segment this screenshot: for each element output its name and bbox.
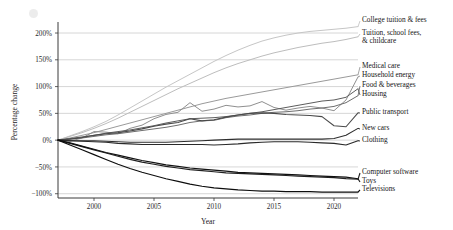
series-label: Housing [362,90,387,98]
x-tick-label: 2020 [327,203,342,211]
chart-figure: −100%−50%0%50%100%150%200% 2000200520102… [0,0,453,230]
series-label: Tuition, school fees,& childcare [362,29,421,46]
series-line [58,140,358,192]
series-label-line: College tuition & fees [362,16,427,24]
series-lines [58,27,358,193]
series-line [58,27,358,141]
series-label-line: Clothing [362,136,388,144]
series-leader-line [358,21,360,27]
series-label: Household energy [362,71,415,79]
series-label-line: Household energy [362,71,415,79]
y-tick-label: 50% [39,110,52,118]
y-tick-label: 100% [35,83,52,91]
series-label: Public transport [362,108,408,116]
series-line [58,75,358,140]
y-axis-ticks: −100%−50%0%50%100%150%200% [31,30,58,199]
y-tick-label: −50% [35,164,52,172]
series-line [58,113,358,140]
series-label-line: Televisions [362,185,395,193]
series-label: Clothing [362,136,388,144]
x-axis-title: Year [201,217,215,226]
series-label-line: Public transport [362,108,408,116]
y-tick-label: −100% [31,190,52,198]
series-leader-line [358,190,360,192]
x-tick-label: 2015 [267,203,282,211]
series-leader-line [358,173,360,179]
series-label-line: & childcare [362,37,421,45]
y-tick-label: 200% [35,30,52,38]
series-line [58,140,358,179]
series-label-line: New cars [362,124,389,132]
x-axis-ticks: 20002005201020152020 [87,198,342,211]
leader-lines [358,21,360,192]
series-line [58,37,358,140]
y-tick-label: 0% [42,137,52,145]
series-leader-line [358,34,360,37]
series-leader-line [358,76,360,77]
series-label: Televisions [362,185,395,193]
y-axis-title: Percentage change [10,83,19,140]
x-tick-label: 2005 [147,203,162,211]
series-leader-line [358,67,360,75]
x-tick-label: 2010 [207,203,222,211]
series-line [58,140,358,179]
series-leader-line [358,128,360,129]
series-label: College tuition & fees [362,16,427,24]
series-label-line: Housing [362,90,387,98]
series-leader-line [358,179,360,182]
x-tick-label: 2000 [87,203,102,211]
series-label: New cars [362,124,389,132]
y-tick-label: 150% [35,56,52,64]
